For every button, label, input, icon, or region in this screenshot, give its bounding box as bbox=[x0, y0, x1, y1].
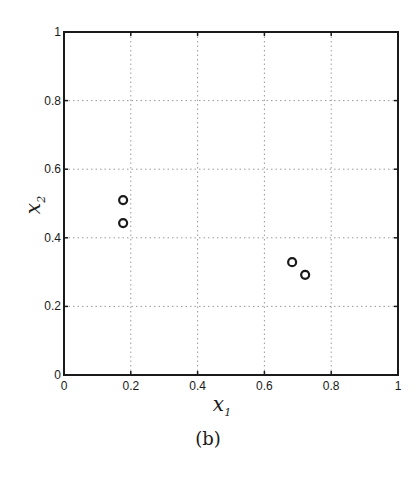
scatter-chart: 00.20.40.60.81 00.20.40.60.81 x1 x2 bbox=[0, 0, 416, 420]
y-tick-label: 1 bbox=[54, 25, 61, 39]
grid-lines bbox=[64, 32, 398, 375]
y-axis-label: x2 bbox=[21, 196, 48, 214]
figure-caption: (b) bbox=[0, 428, 416, 449]
y-tick-label: 0.6 bbox=[44, 162, 61, 176]
x-tick-label: 0.8 bbox=[323, 379, 340, 393]
data-point-marker bbox=[301, 271, 309, 279]
data-point-marker bbox=[119, 196, 127, 204]
y-tick-label: 0.8 bbox=[44, 94, 61, 108]
y-tick-label: 0.4 bbox=[44, 231, 61, 245]
y-tick-label: 0 bbox=[54, 368, 61, 382]
y-tick-label: 0.2 bbox=[44, 299, 61, 313]
x-tick-label: 0.2 bbox=[122, 379, 139, 393]
x-tick-label: 0.6 bbox=[256, 379, 273, 393]
x-tick-label: 0 bbox=[61, 379, 68, 393]
axes-frame bbox=[64, 32, 398, 375]
data-point-marker bbox=[119, 219, 127, 227]
axis-ticks bbox=[64, 32, 398, 375]
x-axis-label: x1 bbox=[213, 392, 231, 419]
data-point-marker bbox=[288, 258, 296, 266]
x-tick-label: 0.4 bbox=[189, 379, 206, 393]
x-tick-label: 1 bbox=[395, 379, 402, 393]
x-tick-labels: 00.20.40.60.81 bbox=[61, 379, 402, 393]
